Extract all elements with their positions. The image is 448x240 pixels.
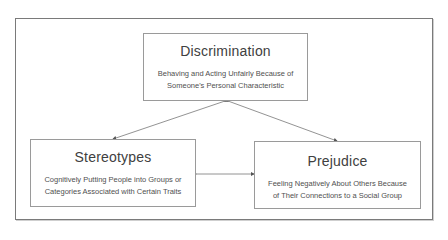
node-stereotypes: Stereotypes Cognitively Putting People i…	[30, 139, 196, 207]
node-title: Discrimination	[144, 43, 307, 59]
node-title: Stereotypes	[31, 149, 195, 165]
node-description: Behaving and Acting Unfairly Because of …	[144, 68, 307, 92]
node-title: Prejudice	[255, 153, 420, 169]
desc-line: Categories Associated with Certain Trait…	[31, 186, 195, 198]
desc-line: Someone's Personal Characteristic	[144, 80, 307, 92]
desc-line: Cognitively Putting People into Groups o…	[31, 174, 195, 186]
node-description: Feeling Negatively About Others Because …	[255, 178, 420, 202]
node-discrimination: Discrimination Behaving and Acting Unfai…	[143, 33, 308, 101]
node-prejudice: Prejudice Feeling Negatively About Other…	[254, 141, 421, 209]
desc-line: of Their Connections to a Social Group	[255, 190, 420, 202]
desc-line: Feeling Negatively About Others Because	[255, 178, 420, 190]
desc-line: Behaving and Acting Unfairly Because of	[144, 68, 307, 80]
node-description: Cognitively Putting People into Groups o…	[31, 174, 195, 198]
